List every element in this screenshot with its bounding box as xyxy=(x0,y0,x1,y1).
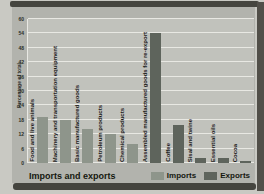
y-tick-label-30: 30 xyxy=(18,88,24,94)
y-axis: 06121824303642485460 xyxy=(12,19,26,163)
bar-petroleum-products xyxy=(105,134,116,163)
bar-group-machinery-and-transportation-equipment: Machinery and transportation equipment xyxy=(51,19,74,163)
category-label-petroleum-products: Petroleum products xyxy=(96,105,104,162)
legend-item-exports: Exports xyxy=(204,171,250,180)
y-tick-label-12: 12 xyxy=(18,131,24,137)
bar-group-petroleum-products: Petroleum products xyxy=(96,19,119,163)
bar-group-basic-manufactured-goods: Basic manufactured goods xyxy=(73,19,96,163)
scan-shadow-bottom xyxy=(13,183,256,190)
legend-label-imports: Imports xyxy=(167,171,196,180)
scanned-figure-page: { "chart_data": { "type": "bar", "title"… xyxy=(0,0,264,194)
category-label-food-and-live-animals: Food and live animals xyxy=(28,99,36,162)
legend-swatch-imports xyxy=(151,172,164,180)
legend-swatch-exports xyxy=(204,172,217,180)
y-tick-label-42: 42 xyxy=(18,59,24,65)
bar-sisal-and-twine xyxy=(195,158,206,163)
bar-group-cocoa: Cocoa xyxy=(231,19,254,163)
chart-footer: Imports and exports ImportsExports xyxy=(29,168,250,183)
category-label-cocoa: Cocoa xyxy=(231,144,239,162)
bar-cocoa xyxy=(240,161,251,163)
scan-shadow-right xyxy=(257,2,264,191)
y-tick-label-0: 0 xyxy=(21,160,24,166)
legend-label-exports: Exports xyxy=(220,171,250,180)
bar-group-essential-oils: Essential oils xyxy=(209,19,232,163)
legend: ImportsExports xyxy=(151,171,250,180)
category-label-basic-manufactured-goods: Basic manufactured goods xyxy=(73,85,81,162)
y-tick-label-54: 54 xyxy=(18,30,24,36)
chart-panel: Percentage of total 06121824303642485460… xyxy=(12,7,255,183)
bar-essential-oils xyxy=(218,158,229,163)
bar-chemical-products xyxy=(127,144,138,163)
y-tick-label-18: 18 xyxy=(18,117,24,123)
bar-assembled-manufactured-goods-for-re-export xyxy=(150,33,161,163)
legend-item-imports: Imports xyxy=(151,171,196,180)
bar-group-food-and-live-animals: Food and live animals xyxy=(28,19,51,163)
y-tick-label-24: 24 xyxy=(18,102,24,108)
y-tick-label-6: 6 xyxy=(21,146,24,152)
category-label-coffee: Coffee xyxy=(164,143,172,162)
bar-coffee xyxy=(173,125,184,163)
category-label-sisal-and-twine: Sisal and twine xyxy=(186,119,194,162)
bar-basic-manufactured-goods xyxy=(82,129,93,163)
y-tick-label-60: 60 xyxy=(18,16,24,22)
bar-group-assembled-manufactured-goods-for-re-export: Assembled manufactured goods for re-expo… xyxy=(141,19,164,163)
category-label-machinery-and-transportation-equipment: Machinery and transportation equipment xyxy=(51,46,59,162)
bar-group-chemical-products: Chemical products xyxy=(118,19,141,163)
bar-group-sisal-and-twine: Sisal and twine xyxy=(186,19,209,163)
y-tick-label-36: 36 xyxy=(18,74,24,80)
bar-group-coffee: Coffee xyxy=(164,19,187,163)
category-label-assembled-manufactured-goods-for-re-export: Assembled manufactured goods for re-expo… xyxy=(141,32,149,162)
bar-food-and-live-animals xyxy=(37,117,48,163)
category-label-chemical-products: Chemical products xyxy=(118,108,126,162)
category-label-essential-oils: Essential oils xyxy=(209,124,217,162)
bar-machinery-and-transportation-equipment xyxy=(60,120,71,163)
plot-area: Food and live animalsMachinery and trans… xyxy=(27,19,254,163)
chart-title: Imports and exports xyxy=(29,171,116,181)
y-tick-label-48: 48 xyxy=(18,45,24,51)
